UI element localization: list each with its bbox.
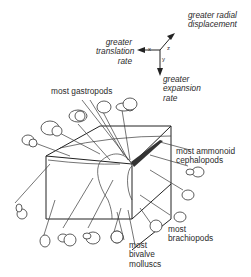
raup-morphospace-diagram: greater radial displacement greater tran… bbox=[0, 0, 251, 277]
shell-icon bbox=[150, 220, 162, 232]
label-most-bivalve-molluscs: most bivalve molluscs bbox=[129, 241, 161, 269]
shell-icon bbox=[123, 98, 137, 110]
label-most-gastropods: most gastropods bbox=[51, 87, 112, 96]
y-axis-letter: y bbox=[162, 55, 165, 64]
shell-icon bbox=[97, 101, 111, 113]
x-axis-letter: x bbox=[148, 45, 151, 54]
z-axis-label: greater radial displacement bbox=[188, 11, 237, 30]
y-axis-label: greater expansion rate bbox=[163, 75, 201, 103]
x-axis-label: greater translation rate bbox=[96, 38, 132, 66]
label-most-ammonoid-cephalopods: most ammonoid cephalopods bbox=[176, 147, 235, 166]
x-arrowhead-icon bbox=[137, 47, 145, 53]
z-arrowhead-icon bbox=[167, 33, 175, 40]
shell-icon bbox=[40, 235, 50, 247]
leader-lines bbox=[15, 100, 190, 245]
shell-icon bbox=[182, 190, 194, 200]
label-most-brachiopods: most brachiopods bbox=[168, 225, 213, 244]
shell-icon bbox=[174, 212, 186, 222]
z-axis-letter: z bbox=[167, 44, 170, 53]
axis-arrows bbox=[137, 33, 175, 76]
